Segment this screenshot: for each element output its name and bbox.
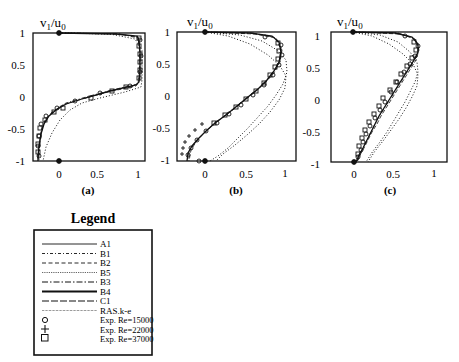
svg-text:1: 1 [165,26,171,38]
svg-text:1: 1 [135,168,141,180]
legend-label-exp-37000: Exp. Re=37000 [100,334,153,344]
panel-c: v1/u0 1 0.5 0 -0.5 -1 0 0.5 1 (c) [303,14,447,197]
svg-text:1: 1 [20,27,26,39]
svg-text:0.5: 0.5 [386,168,400,180]
svg-text:0.5: 0.5 [306,62,320,74]
panel-a-curves [38,33,142,161]
panel-b-curves [187,32,287,161]
svg-text:0: 0 [56,168,62,180]
legend: Legend A1 B1 B2 B5 B3 B4 C1 RAS.k-e Exp.… [34,211,153,355]
panel-b-ylabel: v1/u0 [187,14,213,31]
figure: v1/u0 1 0.5 0 -0.5 -1 0 0.5 1 (a) [0,0,459,362]
svg-text:0: 0 [20,91,26,103]
svg-text:0.5: 0.5 [90,168,104,180]
panel-c-markers [351,30,420,165]
legend-label-c1: C1 [100,296,111,306]
legend-label-b3: B3 [100,277,111,287]
legend-label-b4: B4 [100,287,111,297]
panel-c-yticks: 1 0.5 0 -0.5 -1 [303,30,321,170]
svg-text:0: 0 [315,94,321,106]
panel-a-yticks: 1 0.5 0 -0.5 -1 [8,27,26,167]
svg-text:-0.5: -0.5 [153,122,171,134]
legend-title: Legend [71,211,116,226]
panel-a: v1/u0 1 0.5 0 -0.5 -1 0 0.5 1 (a) [8,15,145,197]
legend-label-b1: B1 [100,249,111,259]
panel-a-ylabel: v1/u0 [40,15,66,32]
legend-label-exp-15000: Exp. Re=15000 [100,315,153,325]
svg-text:-0.5: -0.5 [8,123,26,135]
legend-label-a1: A1 [100,239,111,249]
legend-label-b2: B2 [100,258,111,268]
panel-b: v1/u0 1 0.5 0 -0.5 -1 0 0.5 1 (b) [153,14,296,197]
svg-text:0.5: 0.5 [11,59,25,71]
svg-text:1: 1 [282,167,288,179]
svg-text:0: 0 [202,168,208,180]
svg-text:-1: -1 [311,158,320,170]
legend-labels: A1 B1 B2 B5 B3 B4 C1 RAS.k-e Exp. Re=150… [100,239,153,344]
svg-text:0.5: 0.5 [156,58,170,70]
panel-c-xticks: 0 0.5 1 [351,167,437,180]
legend-swatches [41,244,97,341]
svg-text:0: 0 [165,90,171,102]
panel-b-frame [177,32,296,161]
svg-text:-0.5: -0.5 [303,126,321,138]
svg-text:0: 0 [351,168,357,180]
panel-c-frame [331,32,447,162]
svg-text:1: 1 [315,30,321,42]
panel-b-xticks: 0 0.5 1 [202,167,288,180]
panel-c-ylabel: v1/u0 [337,14,363,31]
legend-label-b5: B5 [100,268,111,278]
svg-text:-1: -1 [161,154,170,166]
panel-b-yticks: 1 0.5 0 -0.5 -1 [153,26,171,166]
svg-text:1: 1 [431,167,437,179]
legend-label-exp-22000: Exp. Re=22000 [100,325,153,335]
panel-a-xticks: 0 0.5 1 [56,168,141,180]
svg-text:-1: -1 [16,155,25,167]
panel-c-label: (c) [384,184,397,197]
panel-c-curves [353,32,419,162]
svg-text:0.5: 0.5 [239,168,253,180]
panel-b-label: (b) [229,184,243,197]
panel-a-label: (a) [82,184,95,197]
legend-label-ras-ke: RAS.k-e [100,306,131,316]
